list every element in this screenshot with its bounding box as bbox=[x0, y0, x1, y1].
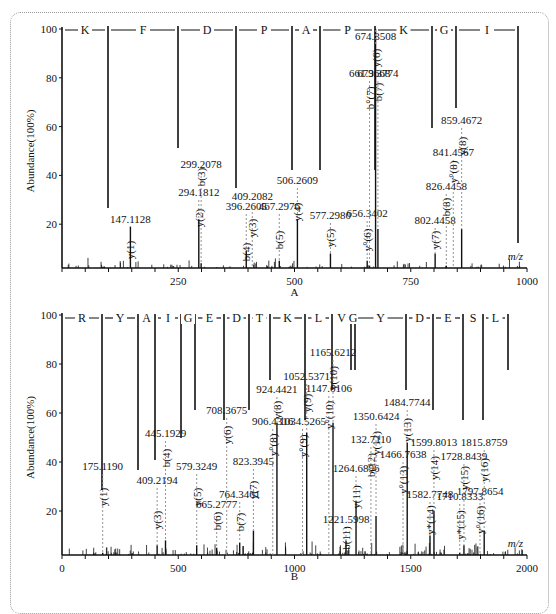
peak-mz-label: 1165.6212 bbox=[310, 346, 356, 358]
ion-label: y(3) bbox=[151, 511, 164, 530]
x-tick-label: 2000 bbox=[516, 562, 539, 574]
ion-label: y°(16) bbox=[474, 506, 487, 535]
sequence-residue: D bbox=[415, 311, 424, 325]
peak-mz-label: 1052.5371 bbox=[283, 370, 330, 382]
peak-mz-label: 1350.6424 bbox=[353, 410, 400, 422]
y-tick-label: 100 bbox=[41, 309, 58, 321]
peak-mz-label: 1466.7638 bbox=[380, 448, 427, 460]
ion-label: y*(14) bbox=[424, 505, 437, 535]
panel-caption: B bbox=[291, 570, 298, 582]
y-tick-label: 40 bbox=[46, 456, 58, 468]
sequence-residue: I bbox=[166, 311, 170, 325]
sequence-residue: L bbox=[492, 311, 499, 325]
peak-mz-label: 1815.8759 bbox=[461, 436, 508, 448]
x-tick-label: 500 bbox=[170, 562, 187, 574]
sequence-residue: T bbox=[256, 311, 264, 325]
peak-mz-label: 1797.8654 bbox=[457, 485, 504, 497]
y-axis-label: Abundance(100%) bbox=[24, 396, 37, 479]
ion-label: y(16) bbox=[478, 458, 491, 482]
ion-label: y(10) bbox=[327, 366, 340, 390]
sequence-residue: G bbox=[349, 311, 358, 325]
sequence-residue: Y bbox=[376, 311, 385, 325]
ion-label: y*(15) bbox=[454, 510, 467, 540]
ion-label: y(14) bbox=[428, 456, 441, 480]
ion-label: y(7) bbox=[247, 481, 260, 500]
sequence-residue: E bbox=[444, 311, 451, 325]
ion-label: b(11) bbox=[340, 526, 353, 550]
sequence-residue: Y bbox=[116, 311, 125, 325]
peak-mz-label: 579.3249 bbox=[176, 460, 218, 472]
peak-mz-label: 445.1929 bbox=[145, 427, 187, 439]
peak-mz-label: 175.1190 bbox=[82, 460, 123, 472]
peak-mz-label: 924.4421 bbox=[256, 383, 297, 395]
sequence-residue: A bbox=[142, 311, 151, 325]
ion-label: y(9) bbox=[301, 394, 314, 413]
sequence-residue: K bbox=[283, 311, 292, 325]
ion-label: b(6) bbox=[211, 512, 224, 531]
peak-mz-label: 1484.7744 bbox=[384, 396, 431, 408]
peak-mz-label: 409.2194 bbox=[137, 474, 179, 486]
sequence-residue: D bbox=[232, 311, 241, 325]
sequence-residue: S bbox=[470, 311, 477, 325]
ion-label: y°(9) bbox=[297, 434, 310, 457]
ion-label: y°(8) bbox=[267, 433, 280, 456]
peak-mz-label: 1221.5998 bbox=[323, 513, 370, 525]
ion-label: y°(10) bbox=[323, 401, 336, 430]
ion-label: y(6) bbox=[221, 426, 234, 445]
ion-label: y(11) bbox=[350, 485, 363, 509]
y-tick-label: 60 bbox=[46, 407, 58, 419]
peak-mz-label: 1599.8013 bbox=[411, 436, 458, 448]
sequence-residue: L bbox=[315, 311, 322, 325]
y-tick-label: 80 bbox=[46, 358, 58, 370]
ion-label: y(1) bbox=[97, 488, 110, 507]
x-tick-label: 1500 bbox=[400, 562, 423, 574]
sequence-residue: V bbox=[337, 311, 346, 325]
x-tick-label: 0 bbox=[59, 562, 65, 574]
ion-label: b(7) bbox=[234, 513, 247, 532]
peak-mz-label: 708.3675 bbox=[206, 404, 248, 416]
ion-label: b(4) bbox=[160, 449, 173, 468]
sequence-residue: E bbox=[206, 311, 213, 325]
peak-mz-label: 1034.5265 bbox=[279, 415, 326, 427]
sequence-residue: R bbox=[78, 311, 86, 325]
sequence-residue: G bbox=[184, 311, 193, 325]
x-axis-label: m/z bbox=[508, 537, 524, 549]
y-tick-label: 20 bbox=[46, 505, 58, 517]
